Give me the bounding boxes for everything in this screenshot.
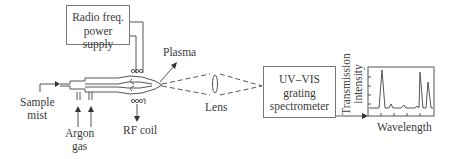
- power-supply-box: Radio freq. power supply: [66, 5, 130, 45]
- x-axis-label: Wavelength: [377, 121, 432, 134]
- spectrometer-label-3: spectrometer: [264, 100, 335, 114]
- power-lead-left: [130, 36, 136, 73]
- spectrometer-label-2: grating: [264, 87, 335, 101]
- argon-gas-label: Argon gas: [65, 127, 94, 153]
- plasma-label: Plasma: [163, 46, 196, 59]
- y-axis-label: Transmission intensity: [340, 52, 364, 116]
- rf-coil-label: RF coil: [123, 124, 157, 137]
- power-supply-label-1: Radio freq.: [67, 11, 129, 25]
- torch-inner-top: [85, 82, 152, 84]
- sample-mist-label: Sample mist: [20, 96, 55, 122]
- sample-label-1: Sample: [20, 96, 55, 109]
- argon-label-1: Argon: [65, 127, 94, 140]
- spectrometer-label-1: UV–VIS: [264, 73, 335, 87]
- y-axis-label-2: intensity: [352, 52, 364, 116]
- sample-label-2: mist: [20, 109, 55, 122]
- torch-inner-bottom: [85, 86, 152, 88]
- argon-label-2: gas: [65, 140, 94, 153]
- lens-label: Lens: [205, 101, 227, 114]
- spectrometer-box: UV–VIS grating spectrometer: [263, 66, 336, 118]
- power-supply-label-2: power supply: [67, 25, 129, 52]
- y-axis-label-1: Transmission: [340, 52, 352, 116]
- spectrum-trace: [369, 70, 433, 108]
- torch-outer: [60, 76, 162, 94]
